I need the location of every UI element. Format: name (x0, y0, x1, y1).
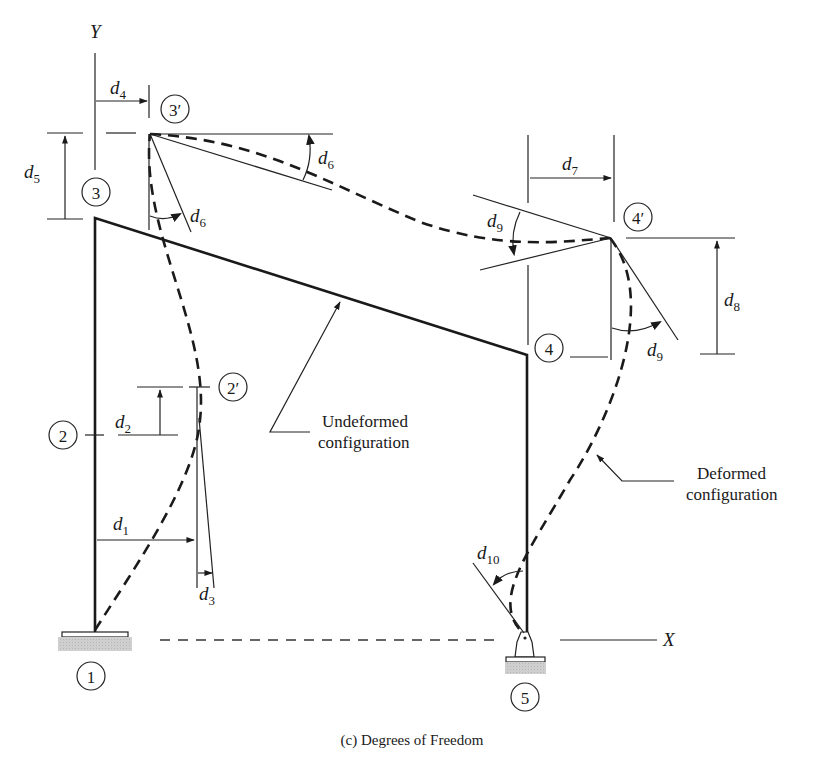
deformed-label-line2: configuration (686, 485, 778, 504)
fixed-support-node-1 (58, 632, 132, 651)
node-4: 4 (535, 334, 563, 362)
dof-d5-dimension: d5 (24, 133, 136, 219)
undeformed-label-line2: configuration (318, 433, 410, 452)
label-d9-column: d9 (647, 339, 663, 364)
deformed-frame (95, 134, 631, 632)
pin-support-node-5 (505, 632, 546, 674)
svg-text:1: 1 (87, 668, 96, 687)
label-d6-column: d6 (190, 205, 207, 230)
y-axis: Y (90, 21, 103, 170)
node-4-prime: 4′ (624, 203, 652, 231)
label-d6-beam: d6 (318, 147, 335, 172)
undeformed-frame (85, 218, 527, 632)
label-d5: d5 (24, 161, 40, 186)
label-d3: d3 (199, 583, 215, 608)
dof-d4-dimension: d4 (96, 77, 149, 118)
label-d1: d1 (113, 513, 129, 538)
svg-text:2: 2 (59, 427, 68, 446)
node-3: 3 (82, 178, 110, 206)
dof-d2-dimension: d2 (115, 387, 210, 436)
dof-d9-rotation-beam: d9 (473, 195, 611, 270)
node-2-prime: 2′ (219, 373, 247, 401)
svg-text:4: 4 (545, 340, 554, 359)
undeformed-callout: Undeformed configuration (270, 302, 410, 452)
node-3-prime: 3′ (161, 95, 189, 123)
node-1: 1 (77, 662, 105, 690)
node-5: 5 (511, 683, 539, 711)
label-d2: d2 (115, 411, 131, 436)
frame-dof-diagram: Y X 1 5 2 2′ (0, 0, 825, 764)
svg-text:4′: 4′ (632, 209, 644, 228)
x-axis-label: X (662, 629, 676, 650)
undeformed-label-line1: Undeformed (322, 412, 408, 431)
svg-text:5: 5 (521, 689, 530, 708)
svg-text:3′: 3′ (169, 101, 181, 120)
dof-d6-rotation-beam: d6 (150, 134, 335, 190)
label-d7: d7 (562, 153, 579, 178)
deformed-callout: Deformed configuration (597, 455, 778, 504)
y-axis-label: Y (90, 21, 103, 42)
node-2: 2 (49, 421, 77, 449)
label-d4: d4 (110, 77, 127, 102)
svg-text:2′: 2′ (227, 379, 239, 398)
dof-d10-rotation: d10 (473, 542, 524, 633)
label-d10: d10 (477, 542, 500, 567)
svg-text:3: 3 (92, 184, 101, 203)
figure-caption: (c) Degrees of Freedom (341, 732, 484, 749)
label-d8: d8 (724, 289, 740, 314)
dof-d3-rotation: d3 (198, 573, 215, 608)
x-axis: X (160, 629, 676, 650)
label-d9-beam: d9 (487, 210, 503, 235)
deformed-label-line1: Deformed (697, 464, 766, 483)
